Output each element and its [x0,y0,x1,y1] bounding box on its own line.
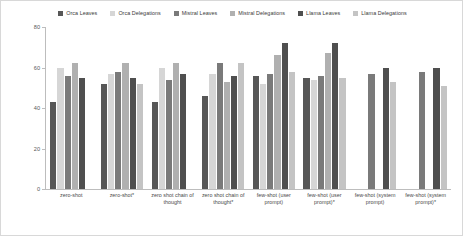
bar [72,63,78,189]
x-axis-label: few-shot (system prompt)* [400,192,451,206]
y-axis-tick [42,108,45,109]
legend-item[interactable]: Mistral Leaves [174,10,217,16]
bar [115,72,121,189]
legend-item-label: Llama Leaves [306,10,340,16]
bar-group [147,27,198,189]
legend-item-label: Mistral Leaves [182,10,217,16]
bar [202,96,208,189]
x-axis-label: few-shot (user prompt) [249,192,300,206]
y-axis-tick-label: 60 [34,65,40,71]
x-axis-label: zero-shot [46,192,97,206]
bar [152,102,158,189]
bar [137,84,143,189]
bar [318,76,324,189]
x-axis-label: few-shot (system prompt) [350,192,401,206]
legend-swatch-icon [110,11,115,16]
bar-group [249,27,300,189]
legend-item[interactable]: Llama Leaves [298,10,340,16]
bar [368,74,374,189]
bar [433,68,439,190]
bar [180,74,186,189]
bar-group [299,27,350,189]
bar-group [46,27,97,189]
plot-area: 020406080 [45,27,451,189]
bar-group [97,27,148,189]
y-axis-tick [42,189,45,190]
bar [238,63,244,189]
legend-item-label: Orca Delegations [118,10,160,16]
legend-swatch-icon [174,11,179,16]
legend-swatch-icon [353,11,358,16]
bar [339,78,345,189]
bar [65,76,71,189]
bar [209,74,215,189]
x-axis-line [45,189,451,190]
bar-groups [46,27,451,189]
bar [108,74,114,189]
y-axis-tick [42,149,45,150]
bar [253,76,259,189]
bar [130,78,136,189]
bar [79,78,85,189]
x-axis-label: zero shot chain of thought [147,192,198,206]
bar [166,80,172,189]
bar [311,80,317,189]
bar [260,84,266,189]
x-axis-label: zero-shot* [97,192,148,206]
bar [50,102,56,189]
chart-legend: Orca LeavesOrca DelegationsMistral Leave… [1,10,463,16]
legend-item[interactable]: Orca Leaves [58,10,97,16]
legend-swatch-icon [58,11,63,16]
x-axis-labels: zero-shotzero-shot*zero shot chain of th… [46,192,451,206]
bar [101,84,107,189]
bar [383,68,389,190]
x-axis-label: few-shot (user prompt)* [299,192,350,206]
y-axis-tick [42,27,45,28]
legend-swatch-icon [230,11,235,16]
y-axis-tick-label: 40 [34,105,40,111]
y-axis-tick-label: 80 [34,24,40,30]
bar [289,72,295,189]
legend-item[interactable]: Llama Delegations [353,10,407,16]
bar [441,86,447,189]
bar [217,63,223,189]
bar-group [400,27,451,189]
bar [173,63,179,189]
legend-item[interactable]: Orca Delegations [110,10,160,16]
bar [390,82,396,189]
legend-item-label: Mistral Delegations [238,10,285,16]
y-axis-tick-label: 20 [34,146,40,152]
bar [282,43,288,189]
legend-item-label: Llama Delegations [361,10,407,16]
bar [267,74,273,189]
y-axis-tick-label: 0 [37,186,40,192]
bar-group [198,27,249,189]
legend-swatch-icon [298,11,303,16]
bar [224,82,230,189]
bar [303,78,309,189]
legend-item[interactable]: Mistral Delegations [230,10,285,16]
bar-group [350,27,401,189]
legend-item-label: Orca Leaves [66,10,97,16]
bar [274,55,280,189]
bar [332,43,338,189]
bar [231,76,237,189]
bar [57,68,63,190]
bar [325,53,331,189]
bar-chart: Orca LeavesOrca DelegationsMistral Leave… [0,0,463,236]
y-axis-tick [42,68,45,69]
bar [419,72,425,189]
bar [122,63,128,189]
bar [159,68,165,190]
x-axis-label: zero shot chain of thought* [198,192,249,206]
